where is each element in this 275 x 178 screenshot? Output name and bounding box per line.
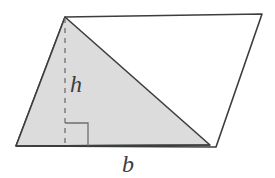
base-label: b [122, 152, 134, 176]
geometry-diagram-svg [0, 0, 275, 178]
height-label: h [70, 72, 82, 96]
geometry-figure: h b [0, 0, 275, 178]
base-segment [16, 145, 210, 146]
